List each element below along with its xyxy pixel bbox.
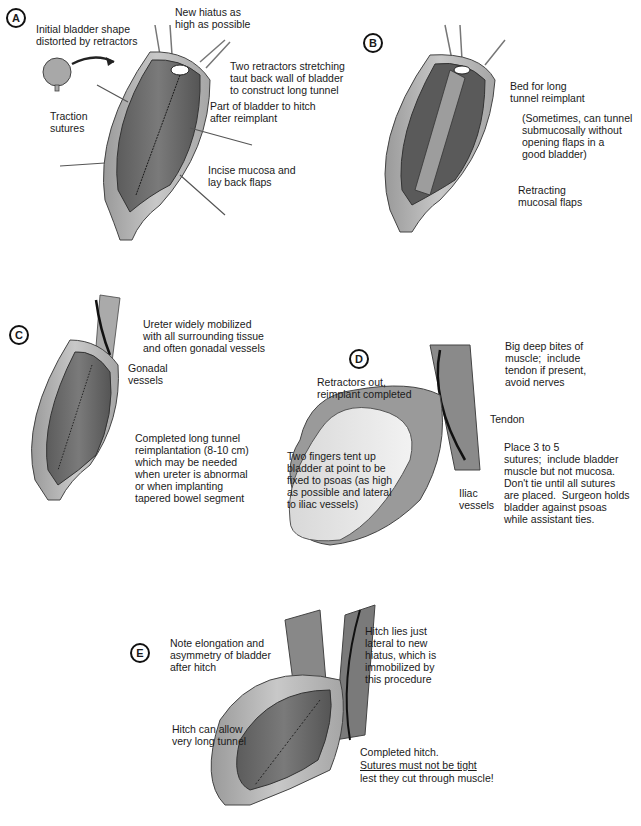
label-warning-cont: lest they cut through muscle! <box>360 772 494 784</box>
label-ureter-mobilized: Ureter widely mobilized with all surroun… <box>143 318 265 354</box>
label-hitch-lies: Hitch lies just lateral to new hiatus, w… <box>365 625 436 685</box>
label-traction-sutures: Traction sutures <box>50 110 88 134</box>
label-incise-mucosa: Incise mucosa and lay back flaps <box>208 164 296 188</box>
label-gonadal-vessels: Gonadal vessels <box>128 362 168 386</box>
label-place-sutures: Place 3 to 5 sutures; include bladder mu… <box>504 441 630 525</box>
panel-label-a: A <box>6 8 26 28</box>
label-iliac-vessels: Iliac vessels <box>459 487 494 511</box>
label-part-to-hitch: Part of bladder to hitch after reimplant <box>210 100 316 124</box>
label-completed-hitch: Completed hitch. <box>360 746 439 758</box>
label-two-retractors: Two retractors stretching taut back wall… <box>230 60 345 96</box>
label-hitch-allows: Hitch can allow very long tunnel <box>172 723 246 747</box>
label-retractors-out: Retractors out, reimplant completed <box>317 376 412 400</box>
label-tendon: Tendon <box>490 413 524 425</box>
panel-e-drawing <box>211 605 375 805</box>
label-sometimes-note: (Sometimes, can tunnel submucosally with… <box>522 112 632 160</box>
panel-label-e: E <box>130 643 150 663</box>
panel-label-b: B <box>363 33 383 53</box>
label-note-elongation: Note elongation and asymmetry of bladder… <box>170 637 271 673</box>
label-initial-shape: Initial bladder shape distorted by retra… <box>36 23 138 47</box>
panel-label-c: C <box>9 325 29 345</box>
label-two-fingers: Two fingers tent up bladder at point to … <box>287 450 392 510</box>
panel-b-drawing <box>385 25 505 232</box>
panel-d-drawing <box>289 345 480 545</box>
label-big-deep-bites: Big deep bites of muscle; include tendon… <box>505 340 586 388</box>
panel-c-drawing <box>32 295 120 500</box>
label-new-hiatus: New hiatus as high as possible <box>175 6 250 30</box>
label-bed-for-tunnel: Bed for long tunnel reimplant <box>510 80 585 104</box>
panel-label-d: D <box>349 349 369 369</box>
label-completed-tunnel: Completed long tunnel reimplantation (8-… <box>135 432 249 504</box>
label-warning: Sutures must not be tight <box>360 759 477 771</box>
label-retracting-flaps: Retracting mucosal flaps <box>518 184 582 208</box>
